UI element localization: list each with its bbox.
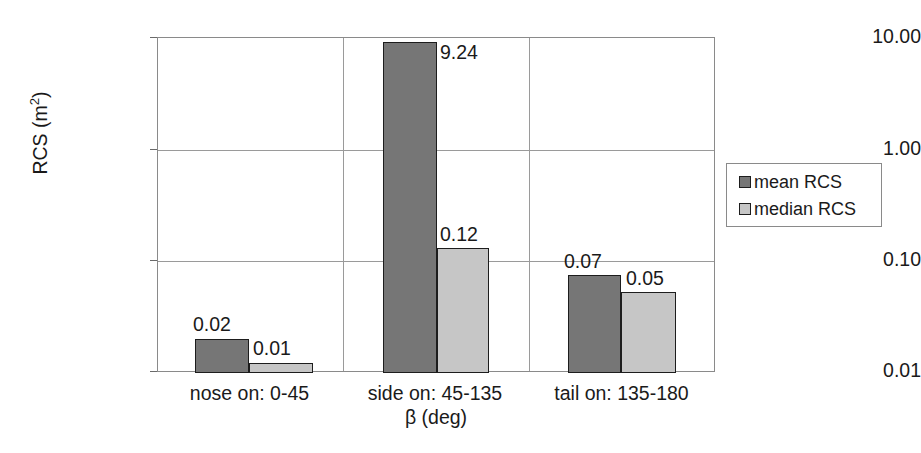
y-tick-mark-10 [150, 37, 157, 38]
legend-swatch-icon-median [739, 203, 751, 215]
y-axis-title-paren: ) [29, 91, 51, 98]
x-axis-title: β (deg) [157, 408, 715, 428]
bar-value-mean-nose-on: 0.02 [193, 315, 231, 335]
legend-swatch-icon-mean [739, 176, 751, 188]
bar-median-side-on [437, 248, 489, 373]
bar-value-median-tail-on: 0.05 [626, 269, 664, 289]
bar-value-median-nose-on: 0.01 [253, 339, 291, 359]
category-separator-1 [343, 38, 344, 371]
legend-item-mean-rcs: mean RCS [739, 172, 842, 192]
bar-mean-nose-on [195, 339, 249, 373]
bar-median-tail-on [621, 292, 676, 373]
category-separator-2 [529, 38, 530, 371]
bar-value-mean-tail-on: 0.07 [564, 252, 602, 272]
y-tick-mark-0p01 [150, 371, 157, 372]
legend-label-median: median RCS [754, 200, 856, 218]
legend: mean RCS median RCS [726, 163, 882, 227]
bar-value-median-side-on: 0.12 [440, 225, 478, 245]
bar-mean-side-on [383, 42, 437, 373]
rcs-bar-chart: 10.00 1.00 0.10 0.01 RCS (m2) 0.02 0.01 … [0, 0, 921, 453]
plot-area [157, 37, 715, 372]
y-tick-label-0p01: 0.01 [779, 361, 921, 381]
y-tick-label-10: 10.00 [779, 27, 921, 47]
y-axis-title: RCS (m2) [28, 33, 50, 233]
x-category-label-side-on: side on: 45-135 [342, 384, 528, 404]
legend-label-mean: mean RCS [754, 173, 842, 191]
legend-item-median-rcs: median RCS [739, 199, 856, 219]
y-tick-mark-0p10 [150, 260, 157, 261]
x-category-label-tail-on: tail on: 135-180 [528, 384, 715, 404]
y-axis-title-exponent: 2 [27, 98, 42, 105]
bar-mean-tail-on [568, 275, 621, 373]
y-tick-mark-1 [150, 149, 157, 150]
y-tick-label-1: 1.00 [779, 139, 921, 159]
bar-value-mean-side-on: 9.24 [440, 43, 478, 63]
x-category-label-nose-on: nose on: 0-45 [157, 384, 342, 404]
y-axis-title-text: RCS (m [29, 105, 51, 174]
y-tick-label-0p10: 0.10 [779, 250, 921, 270]
bar-median-nose-on [249, 363, 313, 373]
